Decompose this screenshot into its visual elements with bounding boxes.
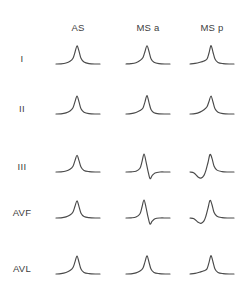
waveform-trace <box>126 253 170 283</box>
waveform-trace <box>56 253 100 283</box>
column-header-ms_a: MS a <box>137 22 160 33</box>
waveform-lead_i-ms_p <box>190 43 234 73</box>
waveform-trace <box>126 43 170 73</box>
waveform-lead_ii-as <box>56 93 100 123</box>
row-label-lead_iii: III <box>18 161 27 172</box>
waveform-trace <box>190 197 234 227</box>
waveform-trace <box>190 43 234 73</box>
waveform-trace <box>56 197 100 227</box>
waveform-trace <box>126 151 170 181</box>
waveform-lead_i-ms_a <box>126 43 170 73</box>
waveform-trace <box>190 93 234 123</box>
row-label-lead_ii: II <box>19 103 25 114</box>
waveform-trace <box>190 151 234 181</box>
waveform-lead_avf-ms_a <box>126 197 170 227</box>
waveform-lead_avf-ms_p <box>190 197 234 227</box>
waveform-trace <box>56 151 100 181</box>
waveform-trace <box>126 197 170 227</box>
waveform-lead_ii-ms_p <box>190 93 234 123</box>
waveform-lead_iii-ms_p <box>190 151 234 181</box>
waveform-trace <box>126 93 170 123</box>
waveform-lead_avl-as <box>56 253 100 283</box>
waveform-lead_i-as <box>56 43 100 73</box>
row-label-lead_i: I <box>21 53 24 64</box>
waveform-lead_avl-ms_a <box>126 253 170 283</box>
waveform-lead_avf-as <box>56 197 100 227</box>
row-label-lead_avl: AVL <box>13 263 31 274</box>
ecg-morphology-figure: ASMS aMS p IIIIIIAVFAVL <box>0 0 240 290</box>
waveform-lead_avl-ms_p <box>190 253 234 283</box>
waveform-lead_iii-as <box>56 151 100 181</box>
waveform-lead_ii-ms_a <box>126 93 170 123</box>
waveform-trace <box>56 43 100 73</box>
column-header-as: AS <box>71 22 84 33</box>
row-label-lead_avf: AVF <box>13 207 32 218</box>
waveform-trace <box>56 93 100 123</box>
waveform-trace <box>190 253 234 283</box>
waveform-lead_iii-ms_a <box>126 151 170 181</box>
column-header-ms_p: MS p <box>201 22 224 33</box>
